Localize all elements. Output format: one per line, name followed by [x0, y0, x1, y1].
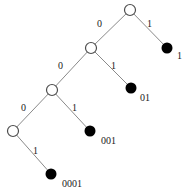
edge-label-0: 0 [97, 19, 102, 29]
leaf-node [162, 43, 173, 54]
edge-label-1: 1 [111, 61, 116, 71]
leaf-label-001: 001 [101, 136, 116, 146]
tree-edge [56, 94, 87, 127]
edge-label-1: 1 [33, 146, 38, 156]
internal-node [8, 126, 19, 137]
edge-label-0: 0 [58, 61, 63, 71]
leaf-label-1: 1 [177, 51, 182, 61]
leaf-node [46, 169, 57, 180]
edge-label-0: 0 [21, 103, 26, 113]
internal-node [47, 85, 58, 96]
leaf-label-0001: 0001 [62, 179, 82, 189]
leaf-node [126, 83, 137, 94]
binary-tree-diagram: 01010111010010001 [0, 0, 190, 196]
internal-node [86, 43, 97, 54]
tree-canvas [0, 0, 190, 196]
leaf-label-01: 01 [140, 93, 150, 103]
edge-label-1: 1 [147, 19, 152, 29]
tree-edge [17, 135, 48, 170]
internal-node [125, 5, 136, 16]
leaf-node [85, 126, 96, 137]
edge-label-1: 1 [72, 103, 77, 113]
